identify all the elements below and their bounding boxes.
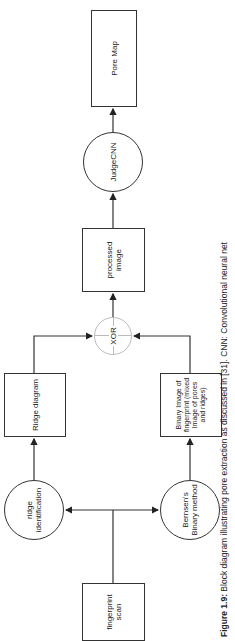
node-processed-image: processed image [82,228,145,292]
node-label: XOR [109,326,118,345]
node-label: processed image [105,231,123,289]
node-label: fingerprint scan [105,586,123,638]
node-label: JudgeCNN [109,142,118,181]
node-judgecnn: JudgeCNN [83,132,143,192]
node-label: Pore Map [110,41,119,76]
node-pore-map: Pore Map [91,10,137,107]
caption-label: Figure 1.9: [219,594,229,637]
node-binary-image: Binary Image of fingerprint (mixed Image… [160,373,222,437]
node-label: Binary Image of fingerprint (mixed Image… [175,376,207,434]
diagram-canvas: fingerprint scan ridge identification Be… [0,0,235,641]
node-label: Bernsen's Binary method [181,483,199,537]
figure-caption: Figure 1.9: Block diagram illustrating p… [219,0,229,637]
node-bernsen-binary-method: Bernsen's Binary method [160,480,220,540]
caption-text: Block diagram illustrating pore extracti… [219,242,229,594]
node-xor: XOR [94,317,132,355]
node-fingerprint-scan: fingerprint scan [82,583,145,641]
node-ridge-diagram: Ridge diagram [4,373,66,437]
node-ridge-identification: ridge identification [4,480,64,540]
node-label: ridge identification [25,483,43,537]
node-label: Ridge diagram [31,379,40,431]
